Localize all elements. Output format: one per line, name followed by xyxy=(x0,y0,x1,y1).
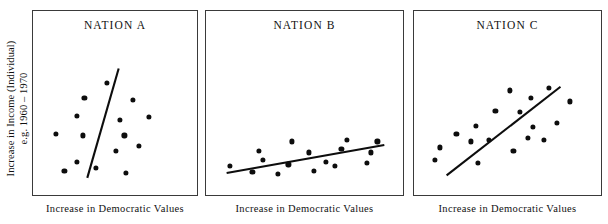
shared-y-axis-label: Increase in Income (Individual) e.g. 196… xyxy=(5,14,30,204)
panel-nation-b: NATION B xyxy=(205,10,404,196)
x-axis-label-nation-a: Increase in Democratic Values xyxy=(24,203,206,214)
plot-area-nation-a xyxy=(33,11,197,195)
trendline-nation-a xyxy=(33,11,197,195)
plot-area-nation-c xyxy=(414,11,601,195)
trendline-nation-b xyxy=(206,11,403,195)
plot-area-nation-b xyxy=(206,11,403,195)
panel-nation-a: NATION A xyxy=(32,10,198,196)
y-axis-label-line-1: Increase in Income (Individual) xyxy=(5,41,16,177)
y-axis-label-line-2: e.g. 1960 – 1970 xyxy=(17,14,30,204)
x-axis-label-nation-c: Increase in Democratic Values xyxy=(409,203,606,214)
trendline-nation-c xyxy=(414,11,601,195)
three-panel-scatter-figure: Increase in Income (Individual) e.g. 196… xyxy=(0,0,608,224)
panel-nation-c: NATION C xyxy=(413,10,602,196)
x-axis-label-nation-b: Increase in Democratic Values xyxy=(205,203,404,214)
